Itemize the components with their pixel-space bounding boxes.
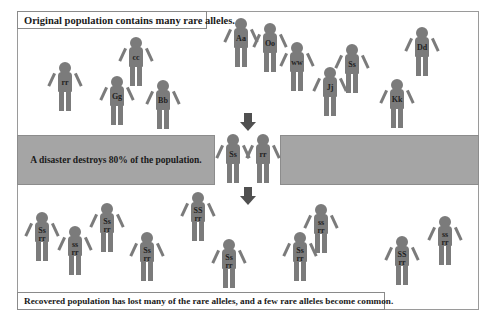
person-leg-r-icon: [353, 73, 358, 93]
person-figure: Ss: [219, 134, 247, 184]
person-leg-l-icon: [227, 163, 232, 183]
genotype-label: Aa: [227, 34, 255, 43]
disaster-caption: A disaster destroys 80% of the populatio…: [30, 155, 201, 165]
person-figure: Ssrr: [93, 203, 121, 253]
person-figure: Ss: [338, 44, 366, 94]
person-figure: Ssrr: [133, 232, 161, 282]
person-leg-l-icon: [439, 245, 444, 265]
person-leg-l-icon: [111, 105, 116, 125]
person-leg-r-icon: [164, 109, 169, 129]
genotype-label-second: rr: [215, 261, 243, 270]
person-leg-r-icon: [298, 71, 303, 91]
person-leg-r-icon: [271, 52, 276, 72]
person-leg-r-icon: [137, 66, 142, 86]
person-figure: rr: [249, 134, 277, 184]
recovered-population-caption: Recovered population has lost many of th…: [17, 292, 385, 310]
person-figure: Ssrr: [215, 239, 243, 289]
genotype-label: Bb: [149, 96, 177, 105]
person-leg-l-icon: [69, 255, 74, 275]
person-leg-l-icon: [36, 241, 41, 261]
person-leg-l-icon: [416, 56, 421, 76]
genotype-label: Gg: [103, 92, 131, 101]
person-figure: ssrr: [431, 216, 459, 266]
person-leg-l-icon: [391, 108, 396, 128]
person-figure: Bb: [149, 80, 177, 130]
down-arrow-to-disaster-icon: [240, 113, 256, 131]
person-leg-l-icon: [235, 47, 240, 67]
person-figure: Gg: [103, 76, 131, 126]
person-leg-r-icon: [108, 232, 113, 252]
person-leg-l-icon: [294, 261, 299, 281]
person-figure: SSrr: [388, 236, 416, 286]
person-leg-r-icon: [322, 233, 327, 253]
original-population-caption-text: Original population contains many rare a…: [24, 15, 235, 26]
person-leg-r-icon: [242, 47, 247, 67]
person-leg-r-icon: [118, 105, 123, 125]
person-leg-l-icon: [101, 232, 106, 252]
original-population-caption: Original population contains many rare a…: [17, 11, 207, 29]
person-figure: ssrr: [61, 226, 89, 276]
genotype-label-second: rr: [286, 254, 314, 263]
person-leg-l-icon: [324, 96, 329, 116]
person-leg-r-icon: [403, 265, 408, 285]
disaster-band-right: [280, 135, 479, 185]
person-leg-r-icon: [43, 241, 48, 261]
genotype-label: Dd: [408, 43, 436, 52]
person-leg-l-icon: [157, 109, 162, 129]
person-leg-r-icon: [331, 96, 336, 116]
genotype-label: Ss: [219, 150, 247, 159]
genotype-label-second: rr: [28, 234, 56, 243]
person-leg-l-icon: [291, 71, 296, 91]
person-figure: ssrr: [307, 204, 335, 254]
person-figure: SSrr: [184, 192, 212, 242]
person-figure: ww: [283, 42, 311, 92]
person-leg-r-icon: [398, 108, 403, 128]
genotype-label: cc: [122, 53, 150, 62]
genotype-label-second: rr: [93, 225, 121, 234]
down-arrow-to-recovery-icon: [240, 187, 256, 205]
genotype-label-second: rr: [307, 226, 335, 235]
person-leg-r-icon: [234, 163, 239, 183]
genotype-label: Oo: [256, 39, 284, 48]
person-leg-r-icon: [264, 163, 269, 183]
person-leg-r-icon: [446, 245, 451, 265]
person-figure: Ssrr: [28, 212, 56, 262]
genotype-label: Ss: [338, 60, 366, 69]
genotype-label-second: rr: [61, 248, 89, 257]
person-leg-r-icon: [76, 255, 81, 275]
genotype-label-second: rr: [184, 214, 212, 223]
person-leg-l-icon: [396, 265, 401, 285]
person-leg-l-icon: [257, 163, 262, 183]
person-leg-r-icon: [199, 221, 204, 241]
disaster-band-left: A disaster destroys 80% of the populatio…: [17, 135, 215, 185]
recovered-population-caption-text: Recovered population has lost many of th…: [24, 296, 393, 306]
genotype-label: Kk: [383, 95, 411, 104]
genotype-label-second: rr: [133, 254, 161, 263]
genotype-label: rr: [51, 78, 79, 87]
person-leg-r-icon: [301, 261, 306, 281]
person-leg-r-icon: [230, 268, 235, 288]
person-leg-l-icon: [192, 221, 197, 241]
person-figure: rr: [51, 62, 79, 112]
genotype-label: ww: [283, 58, 311, 67]
person-figure: Dd: [408, 27, 436, 77]
person-leg-r-icon: [423, 56, 428, 76]
person-leg-l-icon: [315, 233, 320, 253]
genotype-label: rr: [249, 150, 277, 159]
person-leg-r-icon: [66, 91, 71, 111]
person-figure: Kk: [383, 79, 411, 129]
person-leg-l-icon: [59, 91, 64, 111]
person-leg-r-icon: [148, 261, 153, 281]
person-leg-l-icon: [223, 268, 228, 288]
genotype-label-second: rr: [388, 258, 416, 267]
person-leg-l-icon: [141, 261, 146, 281]
person-leg-l-icon: [264, 52, 269, 72]
person-figure: Aa: [227, 18, 255, 68]
person-leg-l-icon: [346, 73, 351, 93]
genotype-label-second: rr: [431, 238, 459, 247]
